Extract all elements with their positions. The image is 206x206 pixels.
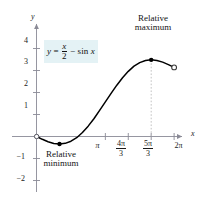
equation-sin-argument: x xyxy=(91,46,95,56)
y-tick-label-4: 4 xyxy=(14,37,28,45)
y-axis-label: y xyxy=(31,13,35,21)
x-tick-5pi-denominator: 3 xyxy=(143,150,153,158)
relative-maximum-point xyxy=(149,58,153,62)
relative-minimum-annotation: Relative minimum xyxy=(26,150,96,169)
relative-maximum-line2: maximum xyxy=(113,23,193,32)
equation-denominator: 2 xyxy=(62,52,67,61)
x-tick-label-4pi-over-3: 4π 3 xyxy=(116,140,133,159)
y-tick-label-2: 2 xyxy=(14,80,28,88)
relative-maximum-annotation: Relative maximum xyxy=(113,14,193,33)
left-endpoint-open-circle xyxy=(34,134,38,138)
y-tick-label-neg2: −2 xyxy=(11,175,25,183)
y-tick-label-neg1: −1 xyxy=(11,153,25,161)
equation-label: y = x 2 − sin x xyxy=(44,40,98,63)
relative-extrema-graph-figure: 4 3 2 1 −1 −2 π 4π 3 5π 3 2π x y y = x 2… xyxy=(0,0,206,206)
relative-minimum-point xyxy=(57,142,61,146)
equation-numerator: x xyxy=(62,42,67,51)
x-tick-label-2pi: 2π xyxy=(172,142,185,150)
equation-equals: = xyxy=(53,46,58,56)
y-tick-label-1: 1 xyxy=(14,102,28,110)
equation-sin: sin xyxy=(78,46,89,56)
x-tick-5pi-numerator: 5π xyxy=(143,140,153,148)
x-axis-label: x xyxy=(191,130,195,138)
y-tick-label-3: 3 xyxy=(14,58,28,66)
equation-y: y xyxy=(47,46,51,56)
equation-fraction: x 2 xyxy=(62,42,67,61)
right-endpoint-open-circle xyxy=(172,65,177,70)
relative-minimum-line2: minimum xyxy=(26,159,96,168)
function-curve xyxy=(37,60,175,144)
x-tick-4pi-denominator: 3 xyxy=(116,150,126,158)
equation-minus: − xyxy=(70,46,75,56)
x-tick-label-5pi-over-3: 5π 3 xyxy=(143,140,160,159)
x-tick-4pi-numerator: 4π xyxy=(116,140,126,148)
